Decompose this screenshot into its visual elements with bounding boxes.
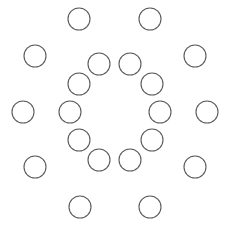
circle-ring-figure [0, 0, 231, 231]
figure-canvas [0, 0, 231, 231]
